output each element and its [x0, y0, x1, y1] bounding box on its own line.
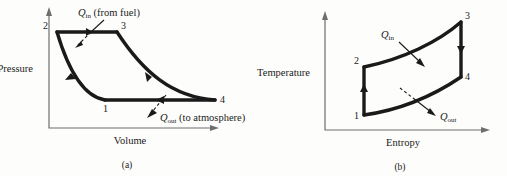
- ts-diagram-panel: 2 1 3 4 Temperature Entropy Qin Qout (b): [253, 0, 507, 176]
- qout-leader-dashed: [400, 88, 413, 98]
- qout-leader-arrowhead: [147, 109, 157, 118]
- state-label-2: 2: [43, 20, 48, 31]
- qin-annotation: Qin: [381, 29, 395, 42]
- qin-leader-arrowhead: [75, 41, 83, 48]
- qout-annotation: Qout(to atmosphere): [160, 112, 246, 125]
- x-axis-label: Volume: [114, 135, 147, 146]
- qin-leader-line: [92, 20, 104, 31]
- process-2-3-curve: [364, 22, 461, 67]
- state-label-3: 3: [465, 10, 470, 21]
- qout-subscript: out: [448, 116, 457, 124]
- qout-annotation: Qout: [440, 111, 457, 124]
- x-axis-label: Entropy: [386, 137, 421, 148]
- flow-arrow-1-2: [360, 84, 368, 92]
- y-axis-arrowhead: [322, 11, 328, 20]
- x-axis-arrowhead: [481, 127, 490, 133]
- qin-qualifier: (from fuel): [94, 7, 141, 19]
- pv-diagram-panel: 2 3 1 4 Pressure Volume Qin(from fuel) Q…: [0, 0, 253, 176]
- qin-annotation: Qin(from fuel): [78, 7, 140, 20]
- state-label-3: 3: [121, 20, 126, 31]
- y-axis-label: Temperature: [257, 67, 310, 78]
- flow-arrow-3-4: [457, 46, 465, 54]
- state-label-2: 2: [354, 55, 359, 66]
- state-label-4: 4: [465, 71, 470, 82]
- state-label-1: 1: [354, 110, 359, 121]
- qout-leader-arrowhead: [427, 108, 436, 116]
- state-label-1: 1: [103, 103, 108, 114]
- y-axis-label: Pressure: [0, 63, 33, 74]
- qin-subscript: in: [389, 34, 395, 42]
- qout-subscript: out: [168, 117, 177, 125]
- flow-arrow-2-3: [86, 28, 93, 36]
- process-3-4-curve: [117, 32, 215, 100]
- panel-b-caption: (b): [394, 162, 405, 173]
- axis-lines: [325, 18, 483, 130]
- qout-qualifier: (to atmosphere): [179, 112, 246, 124]
- qin-subscript: in: [86, 12, 92, 20]
- flow-arrow-4-1: [156, 96, 164, 104]
- brayton-cycle-figure: 2 3 1 4 Pressure Volume Qin(from fuel) Q…: [0, 0, 507, 176]
- y-axis-arrowhead: [46, 7, 52, 16]
- panel-a-caption: (a): [122, 160, 133, 171]
- qin-leader-line: [399, 42, 420, 62]
- state-label-4: 4: [220, 94, 225, 105]
- process-4-1-curve: [364, 77, 461, 115]
- x-axis-arrowhead: [210, 125, 219, 131]
